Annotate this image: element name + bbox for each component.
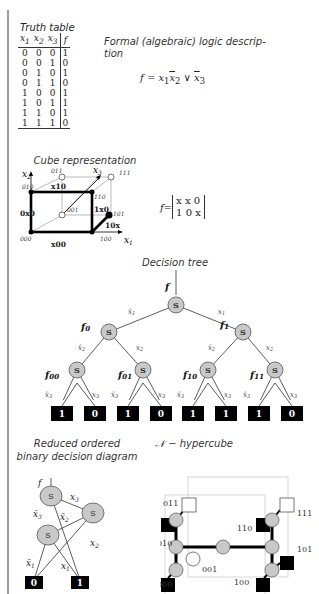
table-cell: 1: [18, 98, 32, 108]
table-cell: 0: [46, 68, 60, 78]
robdd-title: Reduced ordered binary decision diagram: [12, 437, 142, 463]
table-cell: 1: [46, 98, 60, 108]
svg-text:0x0: 0x0: [20, 209, 35, 218]
svg-text:110: 110: [237, 524, 252, 533]
svg-text:110: 110: [94, 193, 106, 200]
svg-text:x2: x2: [90, 538, 99, 549]
table-cell: 0: [46, 108, 60, 118]
table-cell: 0: [32, 58, 46, 68]
table-cell: 0: [18, 78, 32, 88]
decision-tree-leaves: x̄3x3 x̄3x3 x̄3x3 x̄3x3 10101110: [40, 383, 315, 428]
svg-text:x̄3: x̄3: [33, 509, 42, 520]
svg-text:f0: f0: [80, 321, 90, 333]
header-x1: x1: [18, 33, 32, 47]
svg-text:1: 1: [77, 578, 83, 588]
svg-text:101: 101: [297, 545, 312, 554]
svg-text:1: 1: [256, 409, 262, 419]
truth-table: x1 x2 x3 f 00010010010101101001101111011…: [18, 33, 70, 129]
svg-text:x1: x1: [218, 308, 225, 316]
table-cell: 1: [18, 108, 32, 118]
table-row: 0110: [18, 78, 70, 88]
svg-text:x3: x3: [158, 391, 165, 399]
table-row: 1101: [18, 108, 70, 118]
table-cell: 0: [18, 58, 32, 68]
svg-text:x̄1: x̄1: [128, 308, 135, 316]
matrix-row: 1 0 x: [176, 207, 201, 219]
svg-text:000: 000: [20, 235, 32, 242]
decision-tree-title: Decision tree: [120, 257, 230, 268]
table-cell: 1: [18, 118, 32, 129]
svg-text:x3: x3: [290, 391, 297, 399]
table-cell: 1: [32, 78, 46, 88]
table-cell: 0: [18, 68, 32, 78]
truth-table-block: Truth table x1 x2 x3 f 00010010010101101…: [18, 22, 75, 129]
table-row: 1011: [18, 98, 70, 108]
svg-text:010: 010: [22, 183, 34, 190]
svg-text:100: 100: [100, 235, 112, 242]
header-x3: x3: [46, 33, 60, 47]
table-cell: 1: [32, 118, 46, 129]
svg-text:f00: f00: [44, 369, 59, 381]
svg-text:S: S: [106, 327, 112, 337]
cube-diagram: x2 x1 x3 011111 010110 001101 000100 x10…: [20, 165, 145, 250]
table-row: 0010: [18, 58, 70, 68]
svg-text:f10: f10: [182, 369, 197, 381]
header-f: f: [60, 33, 70, 47]
table-cell: 1: [32, 68, 46, 78]
table-cell: 1: [60, 68, 70, 78]
header-x2: x2: [32, 33, 46, 47]
axis-x2-label: x2: [22, 169, 31, 180]
svg-text:x3: x3: [70, 492, 79, 503]
svg-text:f: f: [164, 281, 171, 292]
hypercube-title: 𝒩 − hypercube: [155, 438, 233, 450]
robdd-title-line1: Reduced ordered: [12, 437, 142, 450]
svg-text:0: 0: [92, 409, 98, 419]
axis-x3-label: x3: [93, 165, 102, 176]
svg-text:x1: x1: [61, 561, 70, 572]
svg-text:0: 0: [158, 409, 164, 419]
left-margin-rule: [7, 10, 9, 594]
table-row: 1110: [18, 118, 70, 129]
matrix-label: f=: [160, 202, 172, 213]
table-cell: 1: [60, 108, 70, 118]
svg-text:x3: x3: [224, 391, 231, 399]
svg-text:S: S: [45, 531, 50, 540]
svg-text:10x: 10x: [105, 221, 120, 230]
table-cell: 1: [60, 88, 70, 98]
svg-text:f: f: [37, 478, 43, 488]
svg-text:f1: f1: [219, 319, 229, 331]
table-cell: 1: [46, 118, 60, 129]
svg-text:1: 1: [190, 409, 196, 419]
svg-text:1: 1: [223, 409, 229, 419]
formal-description-title: Formal (algebraic) logic descrip- tion: [104, 36, 266, 60]
table-cell: 0: [60, 118, 70, 129]
table-cell: 0: [32, 47, 46, 58]
svg-text:S: S: [140, 365, 146, 375]
svg-text:f11: f11: [249, 369, 264, 381]
svg-text:x̄3: x̄3: [177, 391, 184, 399]
svg-text:x00: x00: [51, 240, 66, 249]
svg-text:S: S: [205, 365, 211, 375]
svg-text:111: 111: [297, 509, 312, 518]
svg-text:S: S: [90, 509, 95, 518]
svg-text:x3: x3: [92, 391, 99, 399]
table-cell: 0: [60, 58, 70, 68]
table-cell: 1: [60, 47, 70, 58]
table-cell: 0: [46, 88, 60, 98]
svg-text:111: 111: [119, 169, 130, 176]
decision-tree-diagram: SSS SSSS f f0 f1 f00 f01 f10 f11 x̄1 x1 …: [40, 270, 315, 400]
svg-text:x2: x2: [266, 344, 273, 352]
table-cell: 1: [60, 98, 70, 108]
table-row: 0101: [18, 68, 70, 78]
table-cell: 1: [32, 108, 46, 118]
table-cell: 1: [46, 78, 60, 88]
table-row: 0001: [18, 47, 70, 58]
svg-text:011: 011: [163, 499, 178, 508]
table-cell: 0: [32, 98, 46, 108]
svg-text:x̄1: x̄1: [26, 558, 35, 569]
svg-text:x̄2: x̄2: [208, 344, 215, 352]
table-cell: 0: [32, 88, 46, 98]
formal-title-line2: tion: [104, 48, 266, 60]
svg-text:100: 100: [234, 578, 249, 587]
truth-table-title: Truth table: [20, 22, 75, 33]
